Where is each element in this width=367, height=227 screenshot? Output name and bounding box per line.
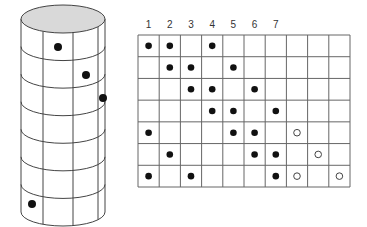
column-label: 3 [188, 19, 194, 30]
filled-dot [209, 108, 216, 115]
filled-dot [188, 173, 195, 180]
filled-dot [230, 108, 237, 115]
open-dot [294, 173, 301, 180]
diagram-canvas: 1234567 [0, 0, 367, 227]
open-dot [315, 151, 322, 158]
filled-dot [230, 64, 237, 71]
filled-dot [167, 151, 174, 158]
filled-dot [145, 129, 152, 136]
cylinder-ring [21, 212, 105, 226]
cylinder-ring [21, 47, 105, 61]
column-labels: 1234567 [146, 19, 279, 30]
column-label: 1 [146, 19, 152, 30]
filled-dot [209, 43, 216, 50]
column-label: 5 [231, 19, 237, 30]
filled-dot [167, 43, 174, 50]
filled-dot [145, 43, 152, 50]
filled-dot [209, 86, 216, 93]
open-dot [336, 173, 343, 180]
dot-grid [138, 35, 350, 187]
column-label: 6 [252, 19, 258, 30]
filled-dot [230, 129, 237, 136]
filled-dot [273, 151, 280, 158]
cylinder-figure [21, 5, 107, 226]
filled-dot [188, 64, 195, 71]
cylinder-ring [21, 129, 105, 143]
filled-dot [273, 173, 280, 180]
cylinder-dot [82, 71, 90, 79]
filled-dot [273, 108, 280, 115]
cylinder-dot [99, 94, 107, 102]
cylinder-ring [21, 102, 105, 116]
cylinder-dot [28, 200, 36, 208]
column-label: 2 [167, 19, 173, 30]
filled-dot [145, 173, 152, 180]
cylinder-dot [54, 43, 62, 51]
cylinder-top [21, 5, 105, 33]
cylinder-ring [21, 184, 105, 198]
column-label: 7 [273, 19, 279, 30]
filled-dot [251, 151, 258, 158]
filled-dot [167, 64, 174, 71]
filled-dot [251, 129, 258, 136]
cylinder-ring [21, 74, 105, 88]
open-dot [294, 129, 301, 136]
filled-dot [188, 86, 195, 93]
column-label: 4 [209, 19, 215, 30]
filled-dot [251, 86, 258, 93]
cylinder-ring [21, 157, 105, 171]
